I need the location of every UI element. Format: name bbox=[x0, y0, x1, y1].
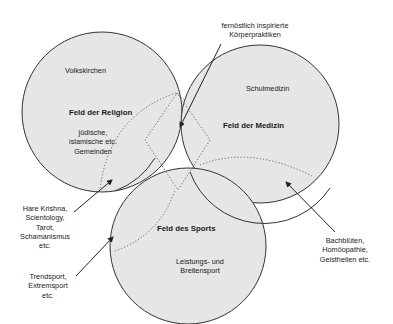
callout-line: etc. bbox=[18, 291, 78, 300]
callout-fernoestlich: fernöstlich inspirierte Körperpraktiken bbox=[210, 21, 300, 40]
title-feld-des-sports: Feld des Sports bbox=[157, 224, 216, 233]
label-line: Breitensport bbox=[160, 266, 240, 275]
callout-line: Schamanismus bbox=[14, 232, 76, 241]
callout-line: etc. bbox=[14, 241, 76, 250]
label-volkskirchen: Volkskirchen bbox=[65, 66, 106, 75]
callout-hare-krishna: Hare Krishna, Scientology, Tarot, Schama… bbox=[14, 204, 76, 250]
label-line: islamische etc. bbox=[58, 137, 128, 146]
label-schulmedizin: Schulmedizin bbox=[246, 84, 289, 93]
callout-line: Homöopathie, bbox=[310, 245, 380, 254]
callout-line: fernöstlich inspirierte bbox=[210, 21, 300, 30]
title-feld-der-religion: Feld der Religion bbox=[69, 108, 132, 117]
label-line: Leistungs- und bbox=[160, 257, 240, 266]
callout-trendsport: Trendsport, Extremsport etc. bbox=[18, 272, 78, 300]
callout-line: Bachblüten, bbox=[310, 236, 380, 245]
label-line: Gemeinden bbox=[58, 147, 128, 156]
callout-line: Geistheilen etc. bbox=[310, 255, 380, 264]
callout-line: Trendsport, bbox=[18, 272, 78, 281]
label-line: jüdische, bbox=[58, 128, 128, 137]
sports-circle bbox=[110, 168, 266, 324]
callout-line: Hare Krishna, bbox=[14, 204, 76, 213]
callout-line: Körperpraktiken bbox=[210, 30, 300, 39]
callout-line: Scientology, bbox=[14, 213, 76, 222]
label-juedische-gemeinden: jüdische, islamische etc. Gemeinden bbox=[58, 128, 128, 156]
callout-bachblueten: Bachblüten, Homöopathie, Geistheilen etc… bbox=[310, 236, 380, 264]
arrow-trend bbox=[76, 237, 113, 276]
label-leistungs-breitensport: Leistungs- und Breitensport bbox=[160, 257, 240, 276]
callout-line: Extremsport bbox=[18, 281, 78, 290]
callout-line: Tarot, bbox=[14, 223, 76, 232]
title-feld-der-medizin: Feld der Medizin bbox=[223, 121, 284, 130]
arrow-bach bbox=[286, 182, 335, 232]
